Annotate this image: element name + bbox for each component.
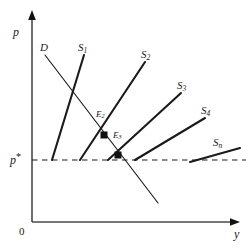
equilibrium-label-E2: E2 — [96, 110, 105, 119]
curve-label-Sn: Sn — [213, 137, 222, 149]
curve-label-S1-subscript: 1 — [84, 46, 88, 55]
curve-label-S4: S4 — [201, 105, 210, 117]
y-axis-arrow-icon — [28, 10, 36, 20]
equilibrium-label-E3: E3 — [113, 131, 122, 140]
figure-canvas — [0, 0, 252, 250]
curve-label-S3-subscript: 3 — [183, 84, 187, 93]
y-axis — [28, 10, 36, 222]
curve-label-S4-subscript: 4 — [207, 109, 211, 118]
x-axis-label: y — [234, 228, 239, 240]
p-star-label: p* — [10, 152, 21, 166]
equilibrium-marker-E3 — [115, 152, 122, 159]
curve-label-S2: S2 — [141, 49, 150, 61]
supply-curve-S2 — [80, 62, 145, 160]
curve-label-S3: S3 — [177, 80, 186, 92]
curve-label-Sn-subscript: n — [219, 141, 223, 150]
x-axis-arrow-icon — [230, 218, 240, 226]
curve-label-D-text: D — [40, 41, 48, 53]
p-star-superscript: * — [16, 151, 21, 162]
curve-label-S2-subscript: 2 — [147, 53, 151, 62]
x-axis — [32, 218, 240, 226]
origin-label: 0 — [19, 226, 25, 237]
equilibrium-label-E3-subscript: 3 — [119, 134, 122, 140]
equilibrium-marker-E2 — [101, 132, 108, 139]
equilibrium-label-E2-subscript: 2 — [102, 113, 105, 119]
curve-label-S1: S1 — [78, 42, 87, 54]
y-axis-label: p — [13, 26, 19, 38]
supply-demand-figure: p y 0 p* D S1 S2 S3 S4 Sn E2 E3 — [0, 0, 252, 250]
curve-label-D: D — [40, 42, 48, 53]
